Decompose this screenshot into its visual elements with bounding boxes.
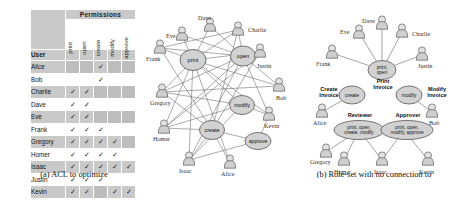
col-header-print-label: print xyxy=(67,42,73,54)
check-icon: ✓ xyxy=(112,188,118,195)
label-isaac: Isaac xyxy=(179,167,192,174)
table-cell-permission xyxy=(122,98,136,111)
label-isaac: Isaac xyxy=(374,168,387,175)
label-homer: Homer xyxy=(334,168,351,175)
label-frank: Frank xyxy=(316,60,330,67)
table-row: Charlie✓✓ xyxy=(31,86,136,99)
user-icon-justin xyxy=(416,47,427,60)
caption-a: (a) ACL to optimize xyxy=(0,170,148,179)
col-header-open-label: open xyxy=(81,41,87,54)
table-cell-permission xyxy=(122,148,136,161)
table-cell-permission xyxy=(122,86,136,99)
label-alice: Alice xyxy=(313,119,326,126)
role-label-create-invoice: Create Invoice xyxy=(313,86,345,98)
table-cell-permission: ✓ xyxy=(66,186,80,199)
label-alice: Alice xyxy=(221,170,234,177)
check-icon: ✓ xyxy=(84,101,90,108)
check-icon: ✓ xyxy=(70,126,76,133)
col-header-create: create xyxy=(94,20,108,50)
table-cell-permission xyxy=(94,86,108,99)
node-approve-label: approve xyxy=(249,138,268,144)
role-label-create-invoice-text: Create Invoice xyxy=(319,86,338,98)
diagram-c-role-nodes: print, open create modify print, open, c… xyxy=(334,61,433,140)
table-cell-permission: ✓ xyxy=(66,123,80,136)
table-cell-permission: ✓ xyxy=(108,148,122,161)
table-row: Dave✓✓ xyxy=(31,98,136,111)
check-icon: ✓ xyxy=(70,151,76,158)
table-cell-permission: ✓ xyxy=(66,148,80,161)
label-charlie: Charlie xyxy=(248,26,266,33)
user-icon-isaac xyxy=(376,152,387,165)
figure-root: Permissions print open create modify app… xyxy=(0,0,460,209)
table-cell-permission xyxy=(80,73,94,86)
panel-diagram-b: print open modify create approve xyxy=(148,0,304,182)
user-icon-alice xyxy=(224,155,235,168)
label-justin: Justin xyxy=(418,62,432,69)
table-row: Eve✓✓ xyxy=(31,111,136,124)
table-cell-permission xyxy=(108,111,122,124)
node-approver-line1: print, open, xyxy=(395,125,418,130)
user-icon-bob xyxy=(273,78,284,91)
check-icon: ✓ xyxy=(70,88,76,95)
table-cell-permission xyxy=(94,111,108,124)
check-icon: ✓ xyxy=(70,101,76,108)
table-cell-permission xyxy=(108,86,122,99)
node-open-label: open xyxy=(237,53,249,59)
col-header-modify: modify xyxy=(108,20,122,50)
col-header-open: open xyxy=(80,20,94,50)
label-dave: Dave xyxy=(198,14,211,21)
table-cell-permission: ✓ xyxy=(80,86,94,99)
table-cell-permission: ✓ xyxy=(94,136,108,149)
table-cell-permission xyxy=(94,98,108,111)
user-icon-homer xyxy=(338,152,349,165)
label-frank: Frank xyxy=(146,55,160,62)
check-icon: ✓ xyxy=(70,163,76,170)
role-label-modify-invoice: Modify Invoice xyxy=(420,86,454,98)
table-cell-permission xyxy=(80,61,94,74)
table-cell-permission: ✓ xyxy=(94,61,108,74)
label-bob: Bob xyxy=(276,94,286,101)
user-icon-charlie xyxy=(396,24,407,37)
panel-acl-table: Permissions print open create modify app… xyxy=(0,0,148,182)
node-print-open-line2: open xyxy=(377,70,388,75)
label-gregory: Gregory xyxy=(150,99,171,106)
user-icon-charlie xyxy=(232,22,243,35)
table-cell-permission: ✓ xyxy=(80,148,94,161)
check-icon: ✓ xyxy=(84,88,90,95)
role-label-print-invoice: Print Invoice xyxy=(368,78,398,90)
panel-diagram-c: print, open create modify print, open, c… xyxy=(304,0,460,182)
table-cell-permission: ✓ xyxy=(66,111,80,124)
check-icon: ✓ xyxy=(70,138,76,145)
user-icon-frank xyxy=(326,45,337,58)
check-icon: ✓ xyxy=(98,163,104,170)
check-icon: ✓ xyxy=(112,163,118,170)
node-create-label: create xyxy=(345,92,359,98)
table-cell-permission: ✓ xyxy=(94,148,108,161)
check-icon: ✓ xyxy=(98,126,104,133)
node-print-label: print xyxy=(188,57,199,63)
check-icon: ✓ xyxy=(84,113,90,120)
col-header-approve: approve xyxy=(122,20,136,50)
label-charlie: Charlie xyxy=(412,30,430,37)
table-cell-permission xyxy=(108,123,122,136)
user-icon-isaac xyxy=(183,152,194,165)
role-label-modify-invoice-text: Modify Invoice xyxy=(427,86,446,98)
check-icon: ✓ xyxy=(98,138,104,145)
label-gregory: Gregory xyxy=(310,158,331,165)
table-cell-user: Gregory xyxy=(31,136,66,149)
table-cell-permission xyxy=(122,136,136,149)
table-row: Bob✓ xyxy=(31,73,136,86)
node-modify-label: modify xyxy=(234,102,250,108)
user-column-header: User xyxy=(31,50,66,61)
user-icon-gregory xyxy=(320,144,331,157)
user-icon-alice xyxy=(316,104,327,117)
label-kevin: Kevin xyxy=(264,122,279,129)
permissions-group-header: Permissions xyxy=(66,10,136,20)
table-cell-user: Homer xyxy=(31,148,66,161)
table-row: Kevin✓✓✓✓ xyxy=(31,186,136,199)
col-header-create-label: create xyxy=(95,40,101,57)
table-cell-user: Frank xyxy=(31,123,66,136)
table-cell-permission: ✓ xyxy=(80,136,94,149)
user-icon-kevin xyxy=(422,152,433,165)
table-cell-user: Eve xyxy=(31,111,66,124)
